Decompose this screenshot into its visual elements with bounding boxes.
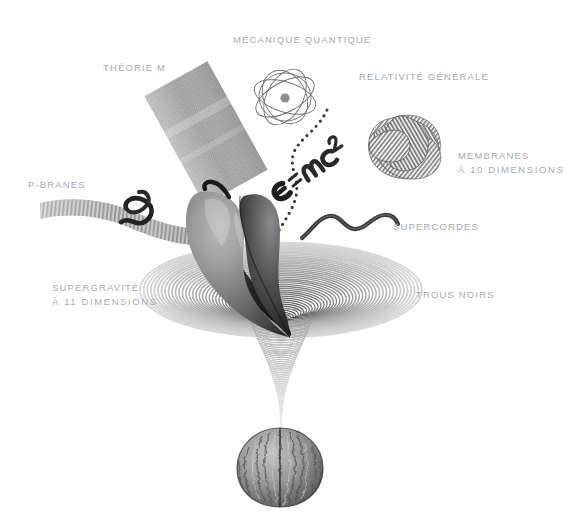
label-trous-noirs: TROUS NOIRS	[416, 288, 495, 302]
funnel-ring	[280, 421, 282, 422]
label-p-branes: P-BRANES	[28, 178, 86, 192]
funnel-ring	[280, 418, 282, 419]
funnel-ring	[280, 413, 283, 414]
label-theorie-m-line1: THÉORIE M	[103, 62, 166, 73]
label-p-branes-line1: P-BRANES	[28, 179, 86, 190]
label-trous-noirs-line1: TROUS NOIRS	[416, 289, 495, 300]
funnel-ring	[280, 414, 283, 415]
label-supergravite: SUPERGRAVITÉ À 11 DIMENSIONS	[52, 281, 158, 309]
label-membranes: MEMBRANES À 10 DIMENSIONS	[458, 149, 564, 177]
label-supercordes: SUPERCORDES	[393, 220, 479, 234]
funnel-ring	[280, 423, 282, 424]
funnel-ring	[280, 419, 282, 420]
label-relativite-generale-line1: RELATIVITÉ GÉNÉRALE	[359, 71, 489, 82]
funnel-ring	[280, 426, 282, 427]
label-supercordes-line1: SUPERCORDES	[393, 221, 479, 232]
label-supergravite-line1: SUPERGRAVITÉ	[52, 282, 140, 293]
label-theorie-m: THÉORIE M	[103, 61, 166, 75]
funnel-ring	[280, 416, 282, 417]
label-mecanique-quantique: MÉCANIQUE QUANTIQUE	[233, 33, 372, 47]
label-membranes-line1: MEMBRANES	[458, 150, 530, 161]
label-membranes-line2: À 10 DIMENSIONS	[458, 163, 564, 177]
funnel-ring	[279, 411, 282, 412]
funnel-ring	[280, 424, 282, 425]
label-relativite-generale: RELATIVITÉ GÉNÉRALE	[359, 70, 489, 84]
label-supergravite-line2: À 11 DIMENSIONS	[52, 295, 158, 309]
label-mecanique-quantique-line1: MÉCANIQUE QUANTIQUE	[233, 34, 372, 45]
